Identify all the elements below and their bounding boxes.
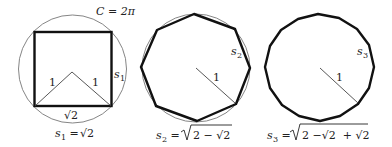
svg-text:2 − √2: 2 − √2	[193, 129, 230, 142]
svg-text:2 −√2 + √2: 2 −√2 + √2	[302, 129, 369, 142]
formula-s1: s 1 = √2	[55, 127, 94, 142]
inscribed-octagon	[141, 14, 250, 121]
panel-octagon: 1 s 2 s 2 = 2 − √2	[141, 14, 250, 144]
radius-label: 1	[336, 71, 343, 84]
radius-label-left: 1	[49, 76, 56, 89]
base-label: √2	[64, 109, 78, 122]
svg-text:2: 2	[237, 51, 242, 60]
panel-square: 1 1 √2 s 1 C = 2π s 1 = √2	[19, 5, 136, 142]
side-label-s1: s 1	[114, 68, 125, 83]
polygon-approximation-figure: 1 1 √2 s 1 C = 2π s 1 = √2 1 s 2 s 2 = 2	[0, 0, 392, 147]
panel-hexadecagon: 1 s 3 s 3 = 2 −√2 + √2	[265, 14, 374, 144]
side-label-s3: s 3	[357, 45, 368, 60]
formula-s3: s 3 = 2 −√2 + √2	[267, 124, 369, 144]
formula-s2: s 2 = 2 − √2	[156, 125, 232, 144]
svg-text:1: 1	[120, 74, 125, 83]
svg-text:=: =	[167, 129, 183, 142]
inscribed-hexadecagon	[265, 14, 374, 121]
radius-lines	[35, 72, 111, 106]
circumference-label: C = 2π	[96, 5, 136, 18]
svg-text:√2: √2	[80, 127, 94, 140]
inscribed-square	[35, 32, 112, 106]
radius-label-right: 1	[92, 76, 99, 89]
side-label-s2: s 2	[231, 45, 242, 60]
radius-label: 1	[213, 71, 220, 84]
svg-text:3: 3	[363, 51, 368, 60]
